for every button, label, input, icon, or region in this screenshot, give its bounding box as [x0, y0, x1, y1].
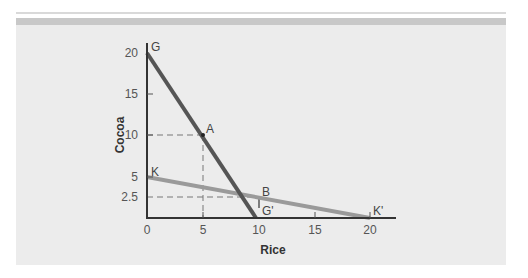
x-tick-20: 20	[363, 223, 377, 237]
y-tick-20: 20	[125, 46, 139, 60]
y-tick-2-5: 2.5	[121, 190, 138, 204]
x-tick-10: 10	[252, 223, 266, 237]
x-tick-15: 15	[308, 223, 322, 237]
x-tick-5: 5	[200, 223, 207, 237]
dashed-guides	[147, 135, 259, 218]
x-axis-label: Rice	[260, 243, 286, 257]
x-tick-0: 0	[144, 223, 151, 237]
label-b: B	[262, 185, 270, 199]
y-axis-label: Cocoa	[113, 116, 127, 153]
point-a	[201, 133, 205, 137]
label-g-prime: G'	[262, 204, 274, 218]
label-k-prime: K'	[373, 204, 383, 218]
label-k: K	[151, 165, 159, 179]
label-g: G	[151, 40, 160, 54]
label-a: A	[206, 122, 214, 136]
y-tick-15: 15	[125, 87, 139, 101]
y-tick-5: 5	[131, 170, 138, 184]
ppf-chart: 20 15 10 5 2.5 0 5 10 15 20 Rice Cocoa G…	[0, 0, 528, 278]
